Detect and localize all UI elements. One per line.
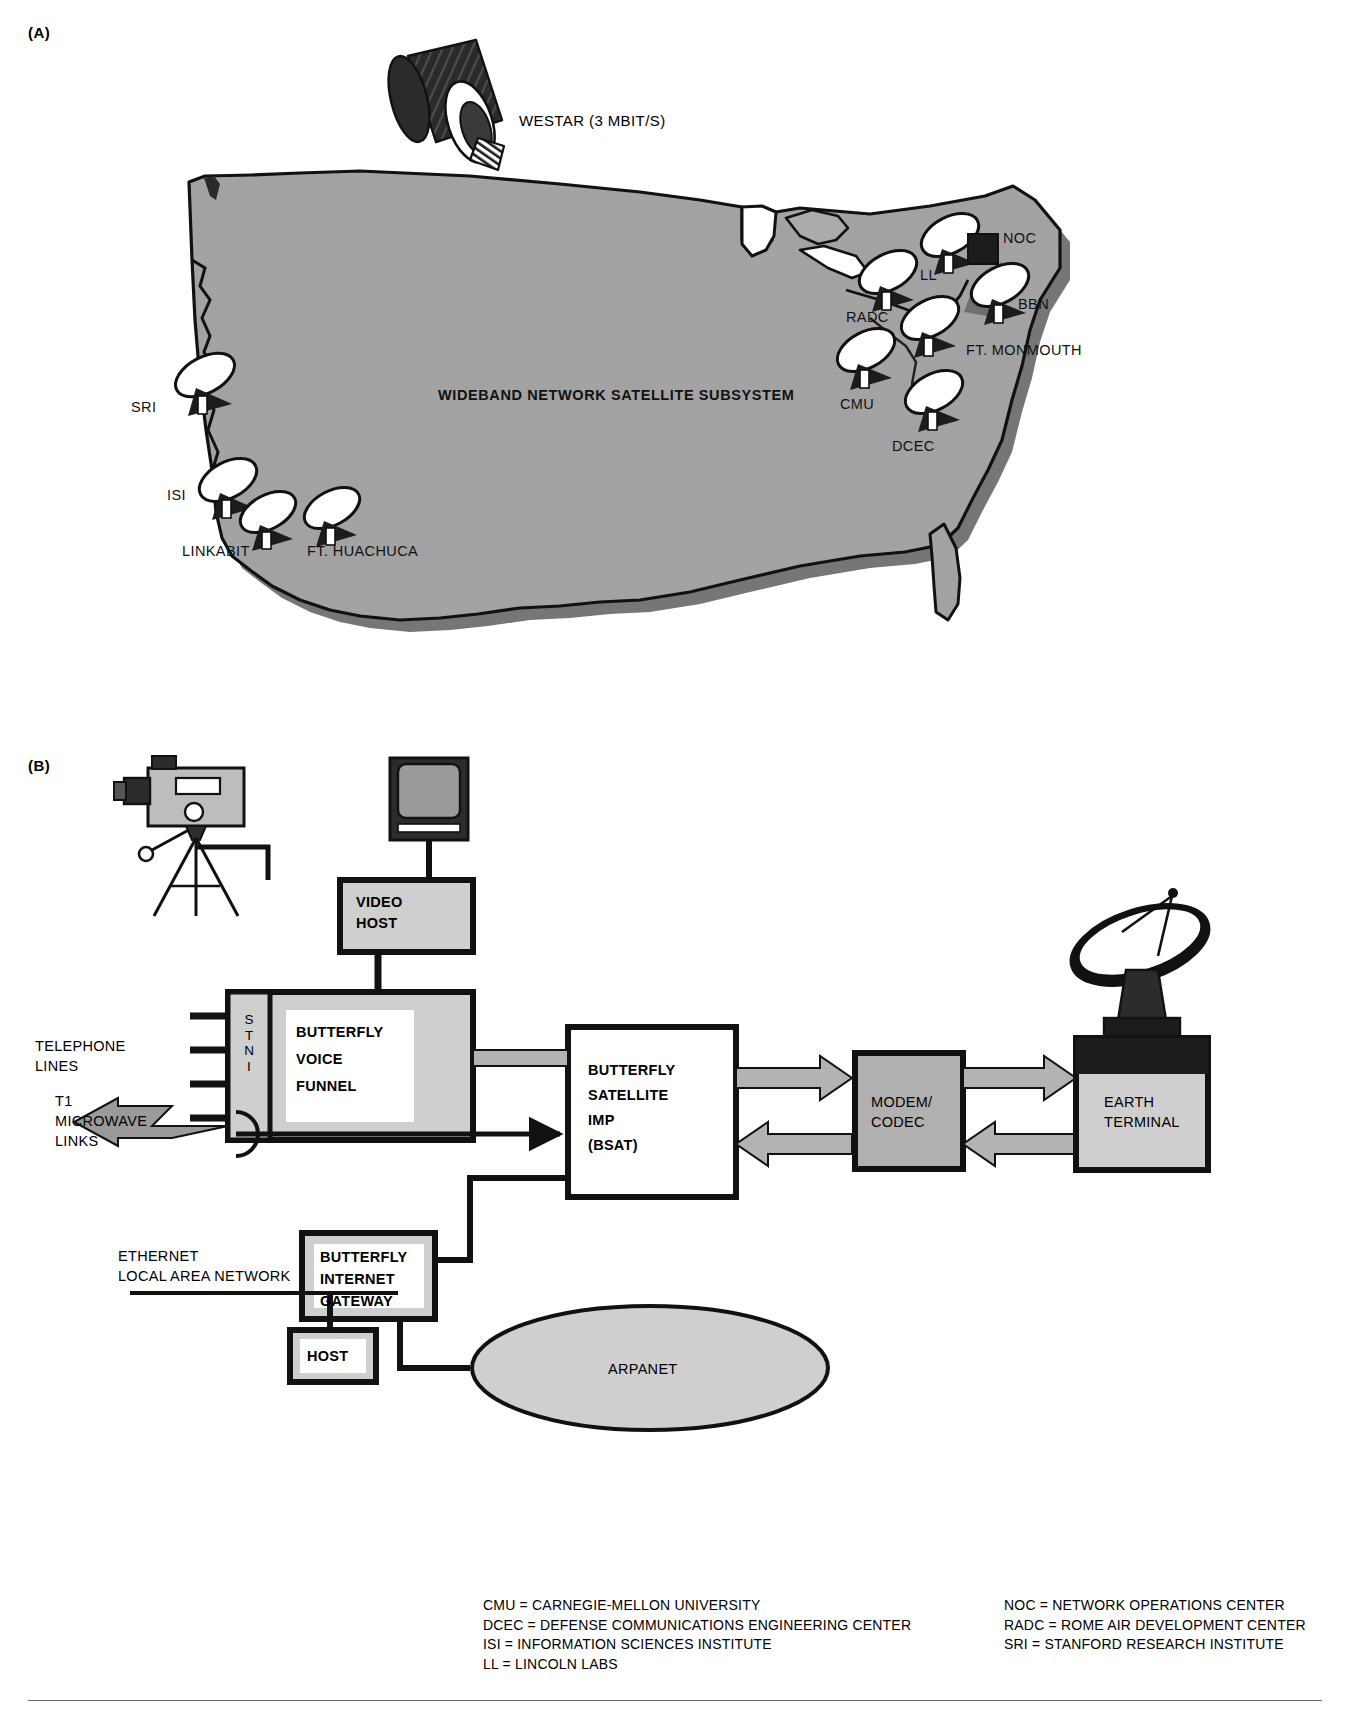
us-map-graphic: [0, 0, 1350, 720]
legend-item-isi: ISI = INFORMATION SCIENCES INSTITUTE: [483, 1635, 911, 1655]
stni-letter-s: S: [238, 1012, 260, 1028]
earth-terminal-line1: EARTH: [1104, 1093, 1154, 1112]
ethernet-line2: LOCAL AREA NETWORK: [118, 1267, 290, 1286]
map-title: WIDEBAND NETWORK SATELLITE SUBSYSTEM: [438, 387, 794, 403]
t1-links-line2: MICROWAVE: [55, 1112, 147, 1131]
voice-funnel-line2: VOICE: [296, 1050, 343, 1069]
modem-codec-line1: MODEM/: [871, 1093, 932, 1112]
legend-item-cmu: CMU = CARNEGIE-MELLON UNIVERSITY: [483, 1596, 911, 1616]
panel-a-map: (A): [0, 0, 1350, 720]
ethernet-line1: ETHERNET: [118, 1247, 199, 1266]
map-label-bbn: BBN: [1018, 296, 1049, 312]
legend-right-col: NOC = NETWORK OPERATIONS CENTER RADC = R…: [1004, 1596, 1306, 1655]
host-label: HOST: [307, 1347, 348, 1366]
satellite-label: WESTAR (3 MBIT/S): [519, 112, 666, 129]
t1-links-line3: LINKS: [55, 1132, 98, 1151]
bsat-line2: SATELLITE: [588, 1086, 669, 1105]
bottom-divider: [28, 1700, 1322, 1701]
map-label-isi: ISI: [167, 487, 186, 503]
legend-item-radc: RADC = ROME AIR DEVELOPMENT CENTER: [1004, 1616, 1306, 1636]
arrow-earth-to-modem: [963, 1122, 1076, 1166]
panel-b-block-diagram: (B): [0, 720, 1350, 1728]
map-label-linkabit: LINKABIT: [182, 543, 250, 559]
bsat-line3: IMP: [588, 1111, 615, 1130]
video-monitor-icon: [390, 758, 468, 880]
map-label-ft-huachuca: FT. HUACHUCA: [307, 543, 418, 559]
arrow-modem-to-earth: [963, 1056, 1076, 1100]
map-label-dcec: DCEC: [892, 438, 935, 454]
figure-page: (A): [0, 0, 1350, 1728]
legend-item-ll: LL = LINCOLN LABS: [483, 1655, 911, 1675]
voice-funnel-line1: BUTTERFLY: [296, 1023, 384, 1042]
arrow-bsat-to-modem: [736, 1056, 852, 1100]
voice-funnel-assembly-box: [228, 992, 473, 1140]
telephone-lines-line1: TELEPHONE: [35, 1037, 126, 1056]
bsat-line1: BUTTERFLY: [588, 1061, 676, 1080]
bsat-line4: (BSAT): [588, 1136, 638, 1155]
stni-letter-t: T: [238, 1028, 260, 1044]
noc-marker-icon: [968, 234, 998, 264]
video-camera-icon: [114, 756, 244, 916]
video-host-label-line1: VIDEO: [356, 893, 403, 912]
map-label-ll: LL: [920, 267, 937, 283]
westar-satellite-icon: [381, 40, 504, 170]
map-label-sri: SRI: [131, 399, 156, 415]
stni-letter-i: I: [238, 1059, 260, 1075]
stni-label: S T N I: [238, 1012, 260, 1074]
telephone-lines-line2: LINES: [35, 1057, 78, 1076]
video-host-label-line2: HOST: [356, 914, 397, 933]
gateway-line1: BUTTERFLY: [320, 1248, 408, 1267]
stni-letter-n: N: [238, 1043, 260, 1059]
arrow-modem-to-bsat: [736, 1122, 852, 1166]
legend-left-col: CMU = CARNEGIE-MELLON UNIVERSITY DCEC = …: [483, 1596, 911, 1674]
map-label-cmu: CMU: [840, 396, 874, 412]
legend-item-sri: SRI = STANFORD RESEARCH INSTITUTE: [1004, 1635, 1306, 1655]
gateway-line3: GATEWAY: [320, 1292, 393, 1311]
arpanet-label: ARPANET: [608, 1360, 678, 1379]
map-label-noc: NOC: [1003, 230, 1036, 246]
earth-terminal-line2: TERMINAL: [1104, 1113, 1180, 1132]
modem-codec-line2: CODEC: [871, 1113, 925, 1132]
t1-links-line1: T1: [55, 1092, 73, 1111]
legend-item-noc: NOC = NETWORK OPERATIONS CENTER: [1004, 1596, 1306, 1616]
voice-funnel-line3: FUNNEL: [296, 1077, 357, 1096]
map-label-radc: RADC: [846, 309, 889, 325]
legend-item-dcec: DCEC = DEFENSE COMMUNICATIONS ENGINEERIN…: [483, 1616, 911, 1636]
block-diagram-graphic: [0, 720, 1350, 1728]
gateway-line2: INTERNET: [320, 1270, 395, 1289]
map-label-ft-monmouth: FT. MONMOUTH: [966, 342, 1082, 358]
